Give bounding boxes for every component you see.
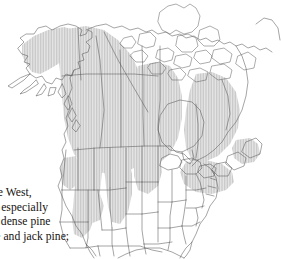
caption-line-1: ne West, (0, 186, 108, 201)
caption-line-4: le and jack pine; (0, 230, 108, 245)
figure-caption: ne West, t, especially n dense pine le a… (0, 186, 108, 244)
mexico-border (98, 246, 162, 252)
figure-page: ne West, t, especially n dense pine le a… (0, 0, 281, 259)
caption-line-2: t, especially (0, 201, 108, 216)
caption-line-3: n dense pine (0, 215, 108, 230)
